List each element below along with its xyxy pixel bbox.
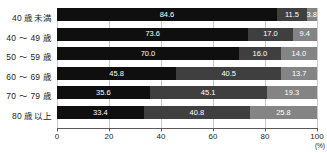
- category-label: 40 ～ 49 歳: [0, 31, 52, 43]
- bar-segment-3: 13.7: [281, 67, 317, 80]
- x-tick: [213, 128, 214, 131]
- bar-segment-1: 35.6: [57, 86, 150, 99]
- bar-row: 84.611.53.8: [57, 8, 317, 21]
- bar-segment-2: 17.0: [248, 28, 292, 41]
- bar-row: 45.840.513.7: [57, 67, 317, 80]
- x-tick-label: 80: [261, 132, 270, 141]
- bar-segment-2: 40.8: [144, 106, 250, 119]
- category-label: 80 歳以上: [0, 109, 52, 121]
- x-axis-line: [57, 128, 317, 129]
- gridline: [317, 8, 318, 132]
- bar-value-label: 73.6: [145, 30, 160, 38]
- bar-value-label: 17.0: [263, 30, 278, 38]
- bar-segment-3: 25.8: [250, 106, 317, 119]
- bar-value-label: 45.8: [109, 70, 124, 78]
- bar-segment-3: 19.3: [267, 86, 317, 99]
- bar-value-label: 11.5: [285, 11, 299, 19]
- bar-value-label: 19.3: [285, 89, 300, 97]
- category-label: 40 歳未満: [0, 11, 52, 23]
- bar-row: 35.645.119.3: [57, 86, 317, 99]
- bar-value-label: 16.0: [252, 50, 267, 58]
- bar-segment-2: 16.0: [239, 47, 281, 60]
- bar-value-label: 35.6: [96, 89, 111, 97]
- x-tick-label: 40: [157, 132, 166, 141]
- category-label: 50 ～ 59 歳: [0, 50, 52, 62]
- x-tick: [109, 128, 110, 131]
- bar-value-label: 33.4: [93, 109, 108, 117]
- stacked-bar-chart: 84.611.53.873.617.09.470.016.014.045.840…: [0, 0, 327, 153]
- bar-row: 33.440.825.8: [57, 106, 317, 119]
- bar-segment-2: 11.5: [277, 8, 307, 21]
- bar-segment-1: 84.6: [57, 8, 277, 21]
- bar-row: 70.016.014.0: [57, 47, 317, 60]
- x-tick-label: 20: [105, 132, 114, 141]
- axis-unit-label: (%): [315, 142, 325, 149]
- x-tick: [265, 128, 266, 131]
- bar-segment-1: 70.0: [57, 47, 239, 60]
- bar-value-label: 9.4: [300, 30, 310, 38]
- bar-segment-3: 3.8: [307, 8, 317, 21]
- x-tick: [57, 128, 58, 131]
- bar-segment-3: 9.4: [293, 28, 317, 41]
- x-tick: [161, 128, 162, 131]
- bar-segment-1: 33.4: [57, 106, 144, 119]
- bar-row: 73.617.09.4: [57, 28, 317, 41]
- bar-segment-2: 40.5: [176, 67, 281, 80]
- bar-value-label: 40.5: [221, 70, 236, 78]
- bar-value-label: 14.0: [291, 50, 306, 58]
- bar-segment-1: 73.6: [57, 28, 248, 41]
- x-tick-label: 60: [209, 132, 218, 141]
- bar-value-label: 13.7: [292, 70, 307, 78]
- bar-value-label: 70.0: [141, 50, 156, 58]
- bar-value-label: 40.8: [190, 109, 205, 117]
- x-tick: [317, 128, 318, 131]
- category-label: 60 ～ 69 歳: [0, 70, 52, 82]
- x-tick-label: 0: [55, 132, 59, 141]
- plot-area: 84.611.53.873.617.09.470.016.014.045.840…: [57, 8, 317, 128]
- bar-value-label: 45.1: [201, 89, 216, 97]
- bar-value-label: 84.6: [160, 11, 175, 19]
- category-label: 70 ～ 79 歳: [0, 89, 52, 101]
- bar-segment-1: 45.8: [57, 67, 176, 80]
- bar-value-label: 25.8: [276, 109, 291, 117]
- bar-segment-2: 45.1: [150, 86, 267, 99]
- x-tick-label: 100: [310, 132, 323, 141]
- bar-value-label: 3.8: [307, 11, 317, 19]
- bar-segment-3: 14.0: [281, 47, 317, 60]
